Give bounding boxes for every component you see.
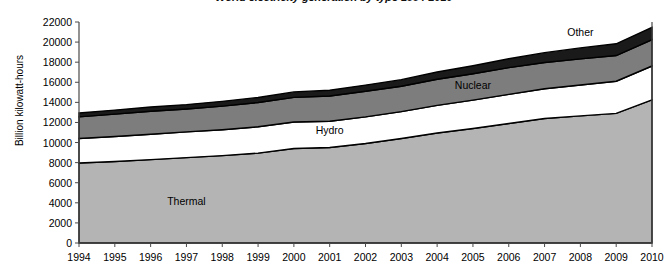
x-tick-label: 2009 (605, 251, 628, 263)
x-tick-label: 2008 (569, 251, 592, 263)
x-tick-label: 1997 (175, 251, 198, 263)
series-label-other: Other (567, 26, 593, 38)
x-tick-label: 2005 (461, 251, 484, 263)
x-tick-label: 2007 (533, 251, 556, 263)
x-tick-label: 1995 (103, 251, 126, 263)
x-tick-label: 1996 (139, 251, 162, 263)
series-label-nuclear: Nuclear (455, 79, 491, 91)
series-label-thermal: Thermal (167, 195, 206, 207)
x-tick-label: 2002 (354, 251, 377, 263)
x-tick-label: 2003 (390, 251, 413, 263)
x-tick-label: 2006 (497, 251, 520, 263)
chart-container: World electricity generation by type 199… (0, 0, 668, 280)
stacked-area-plot (0, 0, 668, 280)
x-tick-label: 2010 (640, 251, 663, 263)
x-tick-label: 1998 (211, 251, 234, 263)
x-tick-label: 2000 (282, 251, 305, 263)
x-tick-label: 2004 (425, 251, 448, 263)
x-tick-label: 1994 (67, 251, 90, 263)
series-label-hydro: Hydro (316, 124, 344, 136)
x-tick-label: 2001 (318, 251, 341, 263)
x-tick-label: 1999 (246, 251, 269, 263)
